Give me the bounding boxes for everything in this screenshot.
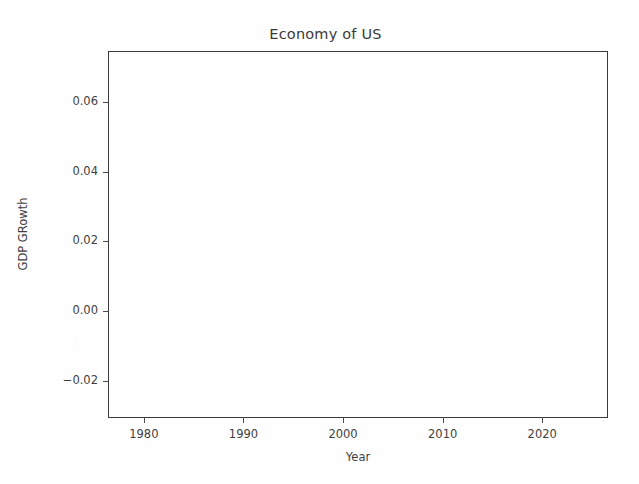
plot-area[interactable]: 19801990200020102020: [108, 51, 608, 418]
x-axis-tick-label: 2010: [428, 427, 457, 441]
x-axis-tick: [144, 417, 145, 423]
x-axis-tick-label: 1990: [229, 427, 258, 441]
x-axis-tick-label: 1980: [129, 427, 158, 441]
y-axis-tick-label: 0.00: [72, 303, 98, 317]
y-axis-tick-label: 0.04: [72, 164, 98, 178]
y-axis-tick: [103, 241, 109, 242]
plot-canvas: [109, 52, 607, 417]
y-axis-label: GDP GRowth: [16, 198, 30, 271]
y-axis-tick: [103, 381, 109, 382]
y-axis-tick: [103, 311, 109, 312]
chart-title-text: Economy of US: [269, 26, 381, 42]
x-axis-tick: [243, 417, 244, 423]
x-axis-tick-label: 2000: [328, 427, 357, 441]
y-axis-tick: [103, 102, 109, 103]
y-axis-tick-label: −0.02: [63, 373, 98, 387]
y-axis-tick: [103, 172, 109, 173]
chart-title: Economy of US: [0, 26, 639, 42]
x-axis-tick: [443, 417, 444, 423]
x-axis-tick: [343, 417, 344, 423]
x-axis-label: Year: [108, 450, 608, 464]
x-axis-tick: [542, 417, 543, 423]
y-axis-tick-label: 0.02: [72, 233, 98, 247]
y-axis-tick-label: 0.06: [72, 94, 98, 108]
chart-screenshot: Economy of US 19801990200020102020 Year …: [0, 0, 639, 484]
x-axis-tick-label: 2020: [528, 427, 557, 441]
